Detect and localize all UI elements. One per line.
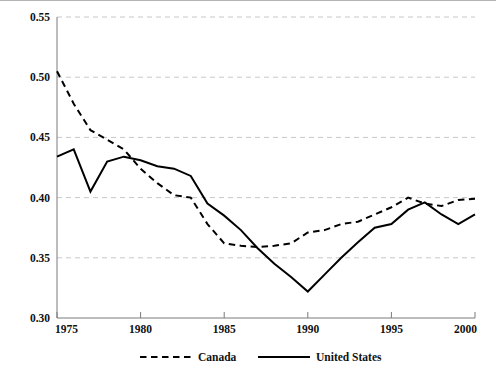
y-tick-label-0.45: 0.45 [30,131,50,143]
y-tick-label-0.35: 0.35 [30,252,50,264]
y-tick-label-group: 0.300.350.400.450.500.55 [30,11,50,324]
y-tick-label-0.40: 0.40 [30,192,50,204]
chart-legend: Canada United States [140,351,382,363]
x-tick-label-2000: 2000 [454,323,477,335]
line-chart-figure: 0.300.350.400.450.500.55 197519801985199… [0,0,496,368]
series-line-canada [57,71,475,247]
chart-svg: 0.300.350.400.450.500.55 197519801985199… [0,0,496,368]
y-tick-label-0.50: 0.50 [30,71,50,83]
y-tick-label-0.55: 0.55 [30,11,50,23]
y-tick-label-0.30: 0.30 [30,312,50,324]
legend-label-canada: Canada [198,351,237,363]
series-line-united-states [57,149,475,291]
x-tick-label-1980: 1980 [129,323,152,335]
gridline-group [57,17,475,258]
x-tick-label-1995: 1995 [380,323,403,335]
x-tickmark-group [57,312,475,318]
legend-label-united-states: United States [316,351,382,363]
x-tick-label-1985: 1985 [213,323,236,335]
x-tick-label-1975: 1975 [55,323,78,335]
x-tick-label-1990: 1990 [296,323,319,335]
x-tick-label-group: 197519801985199019952000 [55,323,477,335]
